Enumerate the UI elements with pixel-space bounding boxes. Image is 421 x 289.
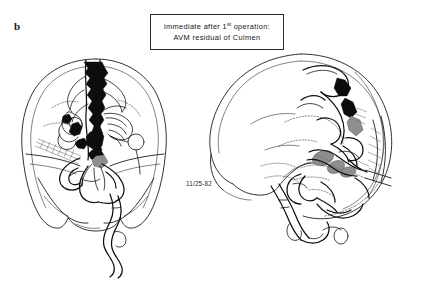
caption-line-1-suffix: operation: (231, 23, 270, 32)
skull-lateral-angiogram (205, 50, 410, 250)
skull-ap-angiogram (14, 56, 179, 271)
avm-residual-nidus (310, 148, 356, 179)
ap-view-svg (14, 56, 179, 271)
figure-panel: b immediate after 1st operation: AVM res… (0, 0, 421, 289)
caption-line-2: AVM residual of Culmen (174, 34, 261, 41)
lateral-view-svg (205, 50, 410, 250)
caption-box: immediate after 1st operation: AVM resid… (150, 14, 284, 50)
caption-line-1-prefix: immediate after 1 (164, 23, 227, 32)
panel-label: b (14, 21, 20, 32)
caption-line-1: immediate after 1st operation: (164, 22, 270, 31)
